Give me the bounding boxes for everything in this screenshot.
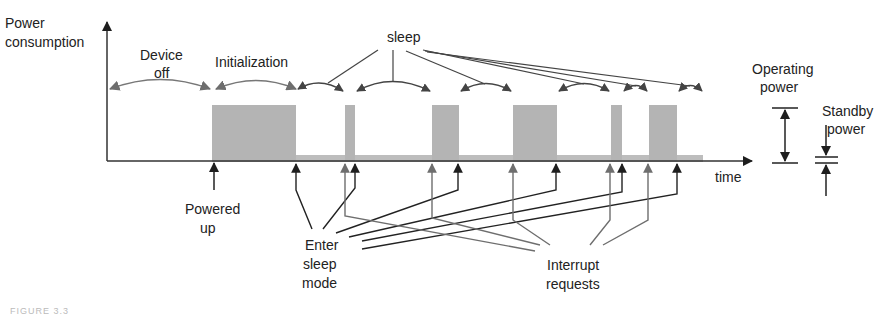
powered-up-label: Poweredup bbox=[185, 201, 240, 236]
sleep-label: sleep bbox=[387, 29, 421, 45]
operating-power-label: Operatingpower bbox=[752, 61, 813, 95]
active-block bbox=[611, 105, 622, 162]
active-block-initialization bbox=[212, 105, 296, 162]
active-block bbox=[345, 105, 355, 162]
standby-power-label: Standbypower bbox=[822, 103, 873, 137]
phase-arcs bbox=[110, 80, 702, 92]
device-off-label: Deviceoff bbox=[140, 47, 183, 81]
sleep-arc bbox=[461, 84, 511, 92]
enter-sleep-mode-label: Entersleepmode bbox=[302, 237, 339, 291]
sleep-arc bbox=[357, 82, 430, 92]
figure-caption: FIGURE 3.3 bbox=[10, 306, 69, 316]
initialization-arc bbox=[216, 81, 296, 90]
sleep-arc bbox=[298, 83, 343, 91]
initialization-label: Initialization bbox=[215, 54, 288, 70]
interrupt-requests-label: Interruptrequests bbox=[546, 257, 600, 292]
active-block bbox=[432, 105, 459, 162]
sleep-arc bbox=[559, 84, 609, 92]
active-blocks bbox=[212, 105, 677, 162]
operating-power-indicator bbox=[772, 108, 798, 163]
sleep-arc bbox=[679, 86, 702, 92]
active-block bbox=[649, 105, 677, 162]
x-axis-label: time bbox=[715, 169, 742, 185]
sleep-leaders bbox=[328, 50, 690, 86]
active-block bbox=[513, 105, 557, 162]
y-axis-label: Powerconsumption bbox=[5, 15, 84, 50]
